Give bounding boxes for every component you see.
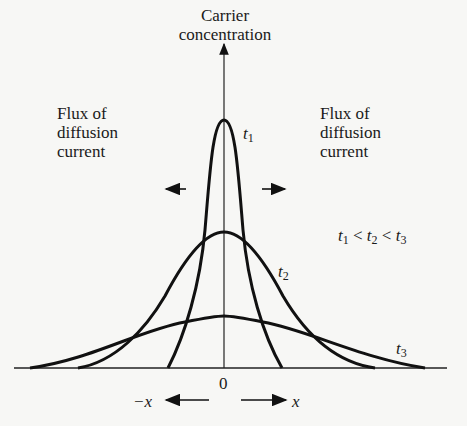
time-relation: t1 < t2 < t3: [338, 226, 406, 250]
neg-x-label: −x: [133, 392, 152, 411]
right-flux-label: Flux of diffusion current: [320, 104, 381, 161]
pos-x-label: x: [292, 392, 300, 411]
y-axis-label: Carrier concentration: [160, 6, 290, 44]
curve-t3: [30, 316, 425, 368]
y-axis-label-line2: concentration: [160, 25, 290, 44]
y-axis-label-line1: Carrier: [160, 6, 290, 25]
curve-label-t2: t2: [278, 262, 289, 286]
right-flux-line3: current: [320, 142, 381, 161]
right-flux-line2: diffusion: [320, 123, 381, 142]
curve-t1: [168, 120, 282, 368]
curve-label-t3: t3: [396, 339, 407, 363]
curve-t2: [78, 232, 375, 368]
left-flux-line1: Flux of: [57, 104, 118, 123]
curve-label-t1: t1: [243, 124, 254, 148]
right-flux-line1: Flux of: [320, 104, 381, 123]
left-flux-label: Flux of diffusion current: [57, 104, 118, 161]
origin-label: 0: [219, 374, 228, 393]
left-flux-line2: diffusion: [57, 123, 118, 142]
left-flux-line3: current: [57, 142, 118, 161]
